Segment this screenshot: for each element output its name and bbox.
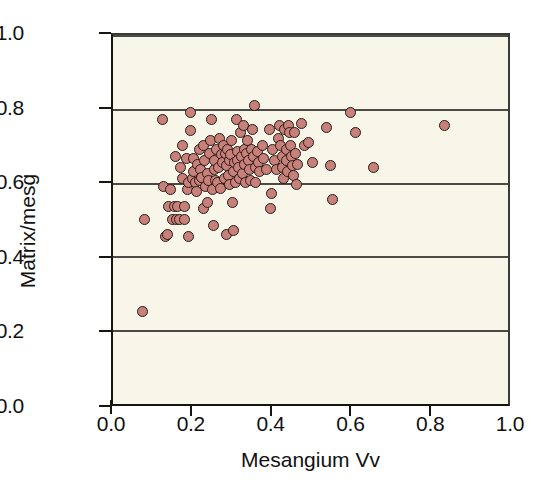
x-axis-tick-mark (270, 406, 272, 416)
data-point (325, 160, 336, 171)
data-point (327, 194, 338, 205)
data-point (185, 107, 196, 118)
y-axis-tick-label: 0.0 (0, 394, 24, 418)
data-point (206, 114, 217, 125)
data-point (296, 118, 307, 129)
data-point (250, 177, 261, 188)
data-point (208, 220, 219, 231)
data-point (202, 197, 213, 208)
x-axis-title: Mesangium Vv (111, 448, 510, 472)
y-axis-tick-mark (99, 181, 111, 183)
data-point (290, 148, 301, 159)
y-axis-tick-label: 0.8 (0, 96, 24, 120)
x-axis-tick-mark (429, 406, 431, 416)
x-axis-tick-label: 0.0 (76, 412, 146, 436)
y-axis-tick-mark (99, 32, 111, 34)
data-point (157, 114, 168, 125)
data-point (439, 120, 450, 131)
data-point (247, 124, 258, 135)
data-point (185, 125, 196, 136)
data-point (345, 107, 356, 118)
scatter-plot-figure: 0.00.20.40.60.81.0 Matrix/mesg 0.00.20.4… (0, 0, 547, 493)
data-point (257, 140, 268, 151)
y-axis-tick-mark (99, 330, 111, 332)
data-point (261, 164, 272, 175)
data-point (226, 135, 237, 146)
data-point (266, 188, 277, 199)
x-axis-origin-tick-mark (110, 400, 112, 414)
data-point (175, 162, 186, 173)
data-point (350, 127, 361, 138)
data-point (289, 127, 300, 138)
x-axis-tick-mark (349, 406, 351, 416)
data-point (179, 214, 190, 225)
x-axis-tick-mark (190, 406, 192, 416)
y-axis-title: Matrix/mesg (16, 121, 40, 341)
data-point (303, 137, 314, 148)
data-point (139, 214, 150, 225)
data-point (292, 159, 303, 170)
data-point (137, 306, 148, 317)
data-point (249, 100, 260, 111)
data-point (179, 201, 190, 212)
data-point (264, 124, 275, 135)
data-point (258, 153, 269, 164)
data-point (228, 225, 239, 236)
y-axis-tick-mark (99, 256, 111, 258)
data-point (368, 162, 379, 173)
plot-area (111, 33, 510, 406)
data-point (307, 157, 318, 168)
data-points-layer (113, 35, 508, 404)
data-point (170, 151, 181, 162)
x-axis-tick-label: 1.0 (475, 412, 545, 436)
data-point (165, 184, 176, 195)
data-point (321, 122, 332, 133)
data-point (291, 179, 302, 190)
data-point (265, 203, 276, 214)
data-point (183, 231, 194, 242)
caption-fragment (18, 481, 530, 491)
data-point (227, 197, 238, 208)
y-axis-tick-mark (99, 107, 111, 109)
y-axis-tick-label: 1.0 (0, 21, 24, 45)
data-point (177, 140, 188, 151)
data-point (162, 229, 173, 240)
